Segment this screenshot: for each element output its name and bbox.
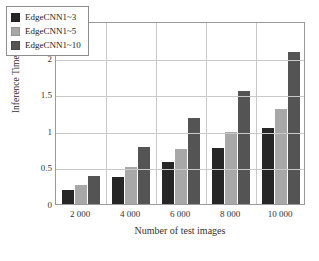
plot-area xyxy=(55,22,305,205)
gridline-vertical xyxy=(206,23,207,204)
legend-item: EdgeCNN1~5 xyxy=(11,24,81,38)
x-axis-tick-label: 8 000 xyxy=(204,209,256,219)
bar xyxy=(125,167,137,204)
y-axis-tick-label: 0.5 xyxy=(6,164,52,173)
legend: EdgeCNN1~3EdgeCNN1~5EdgeCNN1~10 xyxy=(6,6,89,56)
y-axis-tick-label: 0 xyxy=(6,201,52,210)
x-axis-tick-label: 4 000 xyxy=(104,209,156,219)
bar xyxy=(188,118,200,204)
bar xyxy=(288,52,300,204)
bar xyxy=(138,147,150,204)
bar xyxy=(238,91,250,204)
bar xyxy=(88,176,100,204)
bar xyxy=(75,185,87,204)
bars-layer xyxy=(56,23,304,204)
gridline-horizontal xyxy=(56,60,304,61)
bar xyxy=(62,190,74,204)
legend-label: EdgeCNN1~10 xyxy=(25,41,81,50)
x-axis-tick-label: 2 000 xyxy=(54,209,106,219)
bar xyxy=(262,128,274,204)
figure-bar-chart-inference-time: 00.511.522.5 Inference Time/s 2 0004 000… xyxy=(0,0,319,261)
legend-label: EdgeCNN1~3 xyxy=(25,13,76,22)
gridline-horizontal xyxy=(56,169,304,170)
gridline-vertical xyxy=(106,23,107,204)
x-axis-tick-labels: 2 0004 0006 0008 00010 000 xyxy=(55,209,305,223)
x-axis-title: Number of test images xyxy=(55,225,305,236)
bar xyxy=(112,177,124,204)
bar xyxy=(162,162,174,204)
gridline-horizontal xyxy=(56,133,304,134)
legend-swatch-icon xyxy=(11,13,20,22)
legend-swatch-icon xyxy=(11,41,20,50)
gridline-horizontal xyxy=(56,96,304,97)
legend-item: EdgeCNN1~10 xyxy=(11,38,81,52)
x-axis-tick-label: 10 000 xyxy=(254,209,306,219)
bar xyxy=(275,109,287,204)
x-axis-tick-label: 6 000 xyxy=(154,209,206,219)
bar xyxy=(175,149,187,204)
legend-swatch-icon xyxy=(11,27,20,36)
bar xyxy=(212,148,224,204)
legend-label: EdgeCNN1~5 xyxy=(25,27,76,36)
legend-item: EdgeCNN1~3 xyxy=(11,10,81,24)
gridline-vertical xyxy=(256,23,257,204)
bar xyxy=(225,132,237,204)
gridline-vertical xyxy=(156,23,157,204)
